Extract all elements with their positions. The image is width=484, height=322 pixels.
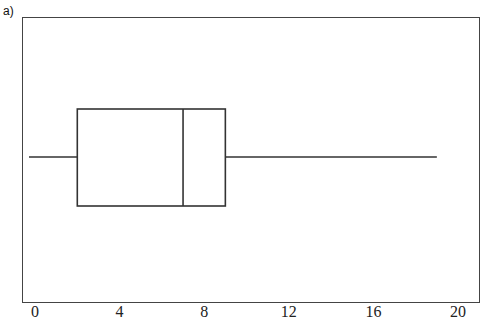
x-tick-label: 0 [31,303,39,321]
x-tick-label: 8 [200,303,208,321]
x-tick-label: 16 [365,303,381,321]
x-tick-label: 12 [281,303,297,321]
x-tick-label: 20 [450,303,466,321]
x-tick-label: 4 [116,303,124,321]
iqr-box [77,109,225,206]
boxplot-canvas [0,0,484,322]
